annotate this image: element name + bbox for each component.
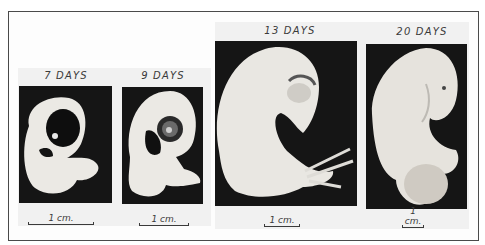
embryo-13-days-image xyxy=(215,41,357,206)
scale-bar-20-days: 1 cm. xyxy=(402,216,424,228)
embryo-9-days-image xyxy=(122,87,203,204)
scale-label-20-days: 1 cm. xyxy=(402,206,424,226)
scale-bar-7-days: 1 cm. xyxy=(28,213,94,225)
embryo-20-days-image xyxy=(366,44,467,209)
panel-label-20-days: 20 DAYS xyxy=(384,26,460,37)
panel-label-7-days: 7 DAYS xyxy=(20,70,112,81)
embryo-photo-13-days xyxy=(215,41,357,206)
scale-bar-9-days: 1 cm. xyxy=(139,214,189,226)
scale-bar-13-days: 1 cm. xyxy=(264,215,300,227)
panel-label-13-days: 13 DAYS xyxy=(250,25,330,36)
embryo-7-days-image xyxy=(19,86,112,203)
embryo-photo-20-days xyxy=(366,44,467,209)
embryo-photo-7-days xyxy=(19,86,112,203)
scale-line xyxy=(402,225,424,228)
scale-line xyxy=(28,222,94,225)
panel-label-9-days: 9 DAYS xyxy=(122,70,204,81)
scale-line xyxy=(264,224,300,227)
scale-line xyxy=(139,223,189,226)
embryo-photo-9-days xyxy=(122,87,203,204)
